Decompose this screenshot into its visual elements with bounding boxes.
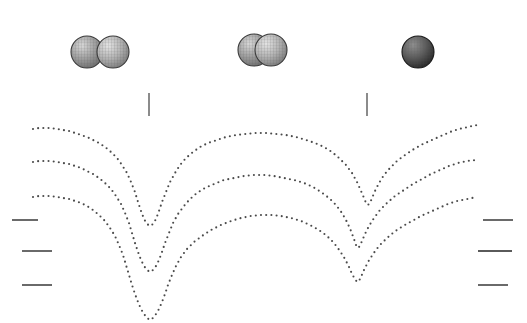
sphere-group-separated-pair bbox=[71, 36, 129, 68]
curve-bottom-dot bbox=[281, 215, 283, 217]
curve-bottom-dot bbox=[109, 227, 111, 229]
curve-middle-dot bbox=[358, 246, 360, 248]
curve-bottom-dot bbox=[147, 318, 149, 320]
curve-top-dot bbox=[83, 135, 85, 137]
curve-bottom-dot bbox=[319, 230, 321, 232]
curve-bottom-dot bbox=[173, 270, 175, 272]
curve-bottom-dot bbox=[83, 203, 85, 205]
curve-middle-dot bbox=[137, 252, 139, 254]
curve-middle-dot bbox=[100, 179, 102, 181]
curve-top-dot bbox=[306, 139, 308, 141]
curve-bottom-dot bbox=[163, 294, 165, 296]
curve-middle-dot bbox=[415, 181, 417, 183]
curve-middle-dot bbox=[161, 251, 163, 253]
curve-top-dot bbox=[372, 194, 374, 196]
curve-top-dot bbox=[465, 126, 467, 128]
curve-middle-dot bbox=[386, 202, 388, 204]
curve-bottom-dot bbox=[391, 232, 393, 234]
curve-bottom-dot bbox=[380, 243, 382, 245]
curve-bottom-dot bbox=[461, 199, 463, 201]
curve-middle-dot bbox=[117, 199, 119, 201]
curve-top-dot bbox=[172, 176, 174, 178]
overlapping-pair-sphere-2-texture-icon bbox=[256, 35, 286, 65]
curve-middle-dot bbox=[263, 174, 265, 176]
curve-middle-dot bbox=[203, 188, 205, 190]
curve-middle-dot bbox=[398, 192, 400, 194]
curve-bottom-dot bbox=[310, 225, 312, 227]
curve-middle-dot bbox=[393, 195, 395, 197]
curve-bottom-dot bbox=[160, 304, 162, 306]
curve-top-dot bbox=[177, 167, 179, 169]
curve-top-dot bbox=[316, 143, 318, 145]
curve-middle-dot bbox=[37, 160, 39, 162]
curve-top-dot bbox=[204, 143, 206, 145]
curve-middle-dot bbox=[355, 244, 357, 246]
curve-middle-dot bbox=[78, 166, 80, 168]
curve-top-dot bbox=[296, 136, 298, 138]
curve-middle-dot bbox=[114, 194, 116, 196]
curve-top-dot bbox=[174, 171, 176, 173]
curve-middle-dot bbox=[463, 161, 465, 163]
curve-middle-dot bbox=[448, 165, 450, 167]
curve-top-dot bbox=[229, 135, 231, 137]
curve-top-dot bbox=[42, 127, 44, 129]
curve-bottom-dot bbox=[171, 275, 173, 277]
curve-middle-dot bbox=[87, 171, 89, 173]
curve-top-dot bbox=[356, 181, 358, 183]
sphere-group-merged-single bbox=[402, 36, 434, 68]
curve-middle-dot bbox=[73, 165, 75, 167]
curve-middle-dot bbox=[172, 222, 174, 224]
curve-top-dot bbox=[224, 136, 226, 138]
curve-top-dot bbox=[88, 137, 90, 139]
curve-bottom-dot bbox=[427, 212, 429, 214]
curve-middle-dot bbox=[274, 175, 276, 177]
curve-middle-dot bbox=[318, 190, 320, 192]
curve-bottom-dot bbox=[133, 290, 135, 292]
curve-top-dot bbox=[68, 130, 70, 132]
curve-bottom-dot bbox=[229, 220, 231, 222]
curve-bottom-dot bbox=[400, 226, 402, 228]
curve-top-dot bbox=[92, 139, 94, 141]
curve-bottom-dot bbox=[78, 201, 80, 203]
curve-top-dot bbox=[385, 172, 387, 174]
curve-top-dot bbox=[337, 156, 339, 158]
curve-middle-dot bbox=[199, 190, 201, 192]
curve-top-dot bbox=[63, 129, 65, 131]
curve-middle-dot bbox=[190, 197, 192, 199]
curve-bottom-dot bbox=[245, 216, 247, 218]
curve-bottom-dot bbox=[177, 261, 179, 263]
curve-middle-dot bbox=[411, 184, 413, 186]
curve-middle-dot bbox=[111, 190, 113, 192]
curve-top-dot bbox=[137, 200, 139, 202]
curve-top-dot bbox=[455, 129, 457, 131]
curve-middle-dot bbox=[141, 262, 143, 264]
curve-middle-dot bbox=[369, 223, 371, 225]
curve-top-dot bbox=[120, 162, 122, 164]
curve-bottom-dot bbox=[162, 299, 164, 301]
curve-top-dot bbox=[144, 220, 146, 222]
curve-bottom-dot bbox=[119, 246, 121, 248]
curve-bottom-dot bbox=[99, 215, 101, 217]
curve-bottom-dot bbox=[276, 215, 278, 217]
curve-middle-dot bbox=[139, 257, 141, 259]
curve-middle-dot bbox=[468, 160, 470, 162]
curve-top-dot bbox=[382, 176, 384, 178]
curve-bottom-dot bbox=[125, 266, 127, 268]
curve-middle-dot bbox=[168, 231, 170, 233]
curve-bottom-dot bbox=[365, 264, 367, 266]
curve-top-dot bbox=[191, 152, 193, 154]
curve-top-dot bbox=[117, 158, 119, 160]
curve-top-dot bbox=[358, 186, 360, 188]
curve-bottom-dot bbox=[122, 256, 124, 258]
curve-middle-dot bbox=[340, 211, 342, 213]
curve-bottom-dot bbox=[130, 281, 132, 283]
curve-curve-bottom bbox=[32, 195, 474, 320]
curve-bottom-dot bbox=[157, 309, 159, 311]
curve-middle-dot bbox=[353, 239, 355, 241]
curve-bottom-dot bbox=[152, 317, 154, 319]
curve-middle-dot bbox=[365, 232, 367, 234]
curve-middle-dot bbox=[453, 163, 455, 165]
curve-bottom-dot bbox=[323, 233, 325, 235]
curve-middle-dot bbox=[175, 217, 177, 219]
curve-bottom-dot bbox=[340, 252, 342, 254]
